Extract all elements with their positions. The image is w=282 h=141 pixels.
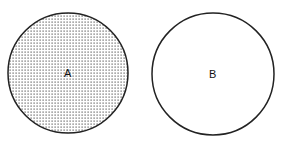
diagram-canvas: A B: [0, 0, 282, 141]
circle-b: B: [152, 13, 274, 135]
circle-a-label: A: [64, 67, 72, 79]
circle-b-label: B: [209, 68, 216, 80]
circle-a: A: [8, 13, 128, 133]
